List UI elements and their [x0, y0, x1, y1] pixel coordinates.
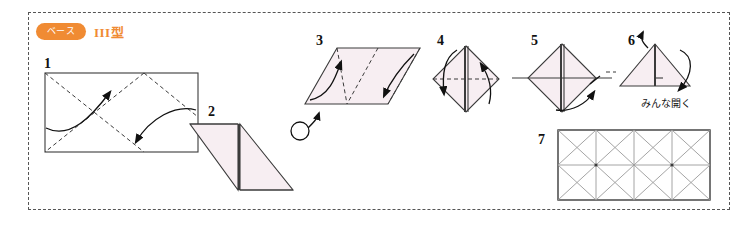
step-number-1: 1	[44, 56, 51, 72]
step-number-6: 6	[628, 33, 635, 49]
step-number-5: 5	[531, 33, 538, 49]
base-type-title: III型	[94, 22, 124, 41]
step-number-2: 2	[208, 104, 215, 120]
diagram-frame	[28, 12, 730, 210]
origami-diagram-page: ベース III型 1 2 3 4 5 6 7 みんな開く	[0, 0, 752, 235]
step-number-7: 7	[538, 132, 545, 148]
header-badge-row: ベース III型	[36, 22, 124, 41]
step-number-3: 3	[316, 33, 323, 49]
base-badge: ベース	[36, 23, 86, 40]
step-6-caption: みんな開く	[641, 95, 691, 110]
step-number-4: 4	[437, 33, 444, 49]
